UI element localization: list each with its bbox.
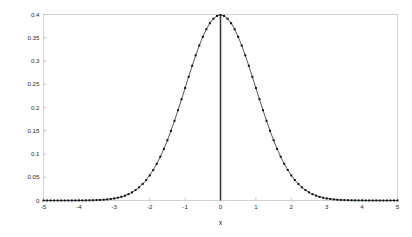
data-point-marker [78,199,80,201]
x-tick-label: -3 [112,203,118,210]
data-point-marker [67,199,69,201]
data-point-marker [283,163,285,165]
data-point-marker [315,195,317,197]
x-tick-label: 2 [290,203,294,210]
data-point-marker [113,197,115,199]
data-point-marker [53,200,55,202]
data-point-marker [46,200,48,202]
data-point-marker [216,15,218,17]
data-point-marker [106,198,108,200]
data-point-marker [177,109,179,111]
data-point-marker [198,45,200,47]
data-point-marker [212,18,214,20]
data-point-marker [276,148,278,150]
y-tick-label: 0.2 [31,104,40,111]
data-point-marker [227,18,229,20]
data-point-marker [120,196,122,198]
data-point-marker [159,156,161,158]
figure-canvas: -5-4-3-2-1012345 00.050.10.150.20.250.30… [0,0,412,237]
data-point-marker [184,87,186,89]
data-point-marker [103,199,105,201]
x-axis-title: x [219,219,223,226]
data-point-marker [386,200,388,202]
data-point-marker [248,65,250,67]
data-point-marker [173,120,175,122]
data-point-marker [124,195,126,197]
data-point-marker [379,199,381,201]
y-axis-tick-labels: 00.050.10.150.20.250.30.350.4 [27,11,40,204]
x-tick-label: -4 [76,203,82,210]
data-point-marker [255,87,257,89]
x-tick-label: 1 [254,203,258,210]
data-point-marker [266,120,268,122]
data-point-marker [117,197,119,199]
data-point-marker [99,199,101,201]
y-tick-label: 0.15 [27,127,40,134]
data-point-marker [312,193,314,195]
data-point-marker [319,196,321,198]
data-point-marker [50,200,52,202]
data-point-marker [368,199,370,201]
data-point-marker [258,98,260,100]
x-tick-label: 4 [360,203,364,210]
data-point-marker [389,200,391,202]
data-point-marker [329,198,331,200]
data-point-marker [297,183,299,185]
data-point-marker [166,139,168,141]
data-point-marker [135,189,137,191]
data-point-marker [127,193,129,195]
data-point-marker [294,179,296,181]
data-point-marker [273,139,275,141]
data-point-marker [230,22,232,24]
y-tick-label: 0.05 [27,173,40,180]
data-point-marker [343,199,345,201]
data-point-marker [234,28,236,30]
data-point-marker [89,199,91,201]
data-point-marker [280,156,282,158]
data-point-marker [358,199,360,201]
data-point-marker [397,200,399,202]
x-tick-label: 5 [396,203,400,210]
data-point-marker [188,76,190,78]
data-point-marker [223,15,225,17]
data-point-marker [382,200,384,202]
data-point-marker [64,199,66,201]
data-point-marker [156,163,158,165]
data-point-marker [202,36,204,38]
data-point-marker [57,200,59,202]
data-point-marker [333,198,335,200]
data-point-marker [301,186,303,188]
data-point-marker [347,199,349,201]
data-point-marker [131,191,133,193]
data-point-marker [308,191,310,193]
data-point-marker [241,45,243,47]
data-point-marker [322,197,324,199]
data-point-marker [393,200,395,202]
y-tick-label: 0.35 [27,34,40,41]
data-point-marker [209,22,211,24]
data-point-marker [142,183,144,185]
data-point-marker [60,199,62,201]
data-point-marker [71,199,73,201]
x-tick-label: -2 [147,203,153,210]
y-tick-label: 0 [36,197,40,204]
data-point-marker [336,199,338,201]
data-point-marker [326,197,328,199]
data-point-marker [354,199,356,201]
data-point-marker [145,179,147,181]
data-point-marker [375,199,377,201]
x-axis-tick-labels: -5-4-3-2-1012345 [41,203,400,210]
y-tick-label: 0.1 [31,150,40,157]
data-point-marker [290,174,292,176]
data-point-marker [96,199,98,201]
data-point-marker [251,76,253,78]
x-tick-label: 3 [325,203,329,210]
data-point-marker [350,199,352,201]
data-point-marker [43,200,45,202]
data-point-marker [74,199,76,201]
data-point-marker [92,199,94,201]
data-point-marker [152,169,154,171]
data-point-marker [181,98,183,100]
y-tick-label: 0.25 [27,80,40,87]
plot-area: -5-4-3-2-1012345 00.050.10.150.20.250.30… [0,0,412,237]
